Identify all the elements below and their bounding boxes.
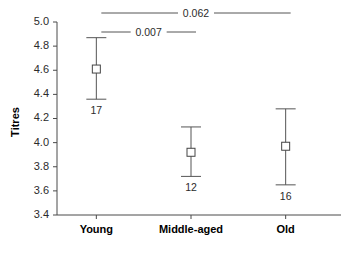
sample-size-label: 16: [280, 190, 292, 202]
significance-p-value: 0.007: [136, 26, 162, 38]
y-tick-label: 4.0: [34, 136, 49, 148]
data-series-group: 171216: [86, 38, 295, 202]
y-axis-title: Titres: [9, 107, 21, 137]
x-category-label: Young: [80, 223, 113, 235]
y-tick-label: 4.2: [34, 111, 49, 123]
x-category-label: Old: [276, 223, 294, 235]
y-tick-group: 3.43.63.84.04.24.44.64.85.0: [34, 15, 57, 220]
x-axis: YoungMiddle-agedOld: [57, 215, 341, 235]
sample-size-label: 17: [90, 104, 102, 116]
y-axis: 3.43.63.84.04.24.44.64.85.0: [34, 15, 57, 220]
significance-annotation: 0.062: [101, 7, 290, 19]
chart-figure: 3.43.63.84.04.24.44.64.85.0 YoungMiddle-…: [0, 0, 350, 254]
y-tick-label: 3.6: [34, 184, 49, 196]
x-category-label: Middle-aged: [159, 223, 223, 235]
sample-size-label: 12: [185, 181, 197, 193]
y-tick-label: 4.4: [34, 87, 49, 99]
y-tick-label: 5.0: [34, 15, 49, 27]
y-tick-label: 3.4: [34, 208, 49, 220]
data-point-group: 12: [181, 127, 201, 193]
significance-annotation-group: 0.0620.007: [101, 7, 290, 38]
y-tick-label: 4.6: [34, 63, 49, 75]
data-point-marker: [92, 65, 100, 73]
data-point-group: 16: [276, 109, 296, 202]
y-tick-label: 3.8: [34, 160, 49, 172]
x-tick-group: YoungMiddle-agedOld: [80, 215, 295, 235]
chart-canvas: 3.43.63.84.04.24.44.64.85.0 YoungMiddle-…: [0, 0, 350, 254]
data-point-marker: [282, 142, 290, 150]
y-tick-label: 4.8: [34, 39, 49, 51]
data-point-marker: [187, 148, 195, 156]
significance-p-value: 0.062: [183, 7, 209, 19]
data-point-group: 17: [86, 38, 106, 117]
significance-annotation: 0.007: [101, 26, 196, 38]
